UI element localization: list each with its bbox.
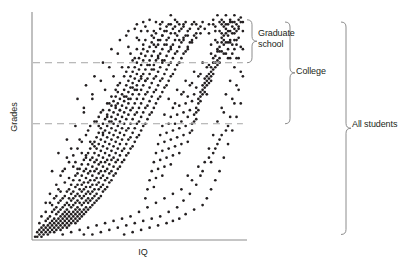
scatter-point xyxy=(216,143,219,146)
scatter-point xyxy=(125,107,128,110)
scatter-point xyxy=(61,206,64,209)
scatter-point xyxy=(76,147,79,150)
scatter-point xyxy=(127,152,130,155)
scatter-point xyxy=(121,127,124,130)
scatter-point xyxy=(49,192,52,195)
scatter-point xyxy=(165,55,168,58)
scatter-point xyxy=(63,181,66,184)
scatter-point xyxy=(193,93,196,96)
scatter-point xyxy=(144,79,147,82)
scatter-point xyxy=(155,201,158,204)
scatter-point xyxy=(150,95,153,98)
scatter-point xyxy=(116,226,119,229)
scatter-point xyxy=(203,27,206,30)
scatter-point xyxy=(161,59,164,62)
scatter-point xyxy=(163,86,166,89)
scatter-point xyxy=(44,226,47,229)
scatter-point xyxy=(148,64,151,67)
scatter-point xyxy=(57,201,60,204)
scatter-point xyxy=(108,229,111,232)
scatter-point xyxy=(167,37,170,40)
scatter-point xyxy=(150,41,153,44)
scatter-point xyxy=(201,93,204,96)
scatter-point xyxy=(165,222,168,225)
scatter-point xyxy=(208,156,211,159)
scatter-point xyxy=(138,120,141,123)
scatter-point xyxy=(119,98,122,101)
scatter-point xyxy=(205,79,208,82)
scatter-point xyxy=(193,21,196,24)
scatter-point xyxy=(119,39,122,42)
scatter-point xyxy=(159,79,162,82)
scatter-point xyxy=(76,168,79,171)
scatter-point xyxy=(80,140,83,143)
scatter-point xyxy=(110,104,113,107)
scatter-point xyxy=(138,211,141,214)
scatter-point xyxy=(121,116,124,119)
scatter-point xyxy=(227,41,230,44)
scatter-point xyxy=(225,14,228,17)
scatter-point xyxy=(80,197,83,200)
scatter-point xyxy=(125,143,128,146)
scatter-point xyxy=(74,161,77,164)
scatter-point xyxy=(108,181,111,184)
scatter-point xyxy=(95,147,98,150)
scatter-point xyxy=(112,122,115,125)
scatter-point xyxy=(220,32,223,35)
scatter-point xyxy=(172,73,175,76)
scatter-point xyxy=(78,217,81,220)
scatter-point xyxy=(51,170,54,173)
scatter-point xyxy=(83,170,86,173)
scatter-point xyxy=(93,188,96,191)
scatter-point xyxy=(159,134,162,137)
scatter-point xyxy=(53,226,56,229)
scatter-point xyxy=(91,190,94,193)
scatter-point xyxy=(231,52,234,55)
scatter-point xyxy=(142,98,145,101)
scatter-point xyxy=(85,199,88,202)
scatter-point xyxy=(193,120,196,123)
scatter-point xyxy=(233,102,236,105)
scatter-point xyxy=(104,118,107,121)
scatter-point xyxy=(144,93,147,96)
scatter-point xyxy=(112,75,115,78)
scatter-point xyxy=(227,125,230,128)
scatter-point xyxy=(42,229,45,232)
scatter-point xyxy=(112,156,115,159)
scatter-point xyxy=(61,197,64,200)
scatter-point xyxy=(148,59,151,62)
scatter-point xyxy=(61,222,64,225)
scatter-point xyxy=(208,147,211,150)
scatter-point xyxy=(40,231,43,234)
scatter-point xyxy=(108,143,111,146)
scatter-point xyxy=(114,129,117,132)
scatter-point xyxy=(63,215,66,218)
scatter-point xyxy=(74,217,77,220)
scatter-point xyxy=(119,82,122,85)
scatter-point xyxy=(99,186,102,189)
scatter-point xyxy=(195,107,198,110)
scatter-point xyxy=(195,32,198,35)
scatter-point xyxy=(148,73,151,76)
scatter-point xyxy=(138,134,141,137)
scatter-point xyxy=(125,118,128,121)
scatter-point xyxy=(140,88,143,91)
scatter-point xyxy=(72,215,75,218)
scatter-point xyxy=(97,163,100,166)
scatter-point xyxy=(184,79,187,82)
scatter-point xyxy=(193,34,196,37)
scatter-point xyxy=(242,75,245,78)
scatter-point xyxy=(102,156,105,159)
scatter-point xyxy=(66,138,69,141)
scatter-point xyxy=(76,215,79,218)
scatter-point xyxy=(116,136,119,139)
scatter-point xyxy=(57,188,60,191)
scatter-point xyxy=(116,84,119,87)
scatter-point xyxy=(91,93,94,96)
scatter-point xyxy=(163,140,166,143)
scatter-point xyxy=(222,156,225,159)
scatter-point xyxy=(174,39,177,42)
scatter-point xyxy=(110,127,113,130)
annotation-graduate-school: Graduate school xyxy=(258,28,306,50)
scatter-point xyxy=(99,231,102,234)
